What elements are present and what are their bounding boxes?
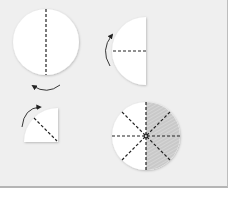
step-4-unfolded-circle (112, 102, 180, 170)
folding-diagram (0, 0, 228, 188)
step-2-half-circle (112, 17, 146, 85)
diagram-panel (0, 0, 228, 188)
step-3-quarter-circle (24, 108, 58, 142)
arrow-1-icon (33, 85, 60, 90)
arrow-2-icon (105, 35, 112, 66)
step-1-full-circle (13, 9, 79, 75)
